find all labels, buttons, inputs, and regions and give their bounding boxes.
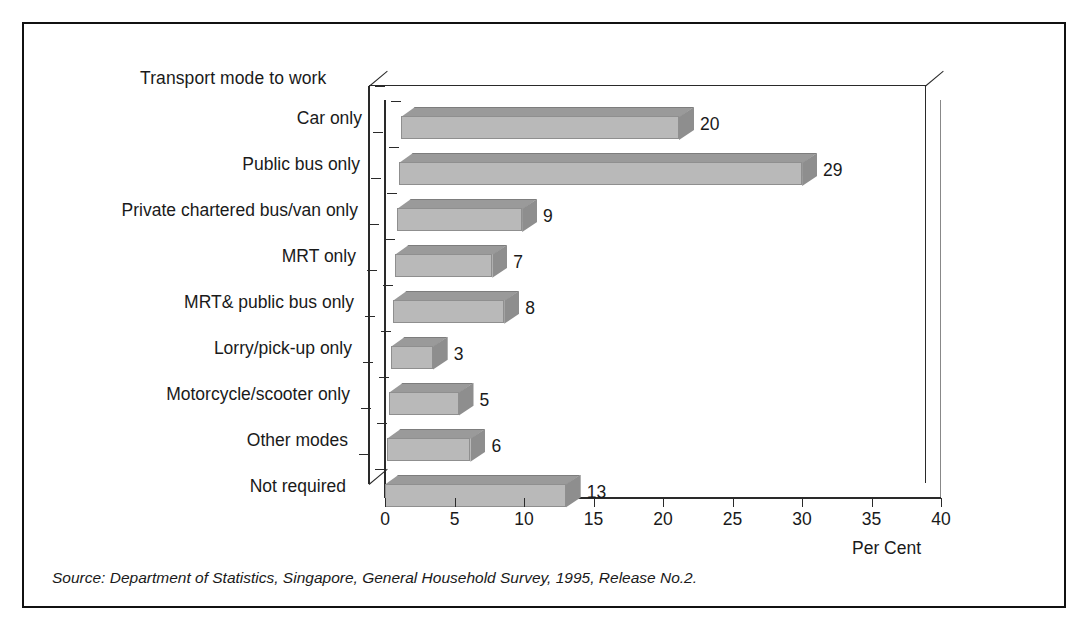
x-axis-tick-label: 30	[782, 509, 822, 530]
bar-4: 7	[395, 245, 507, 268]
x-axis-tick	[733, 498, 734, 507]
x-axis-tick-label: 35	[852, 509, 892, 530]
y-axis-tick	[391, 101, 401, 102]
bar-value-label: 9	[543, 206, 553, 227]
y-axis-tick-back	[359, 454, 369, 455]
chart-plot-area: Transport mode to work 202997835613 Car …	[0, 0, 1091, 627]
y-axis-tick-back	[373, 132, 383, 133]
bar-8: 6	[387, 429, 485, 452]
y-axis	[384, 100, 386, 498]
x-axis-tick-label: 5	[435, 509, 475, 530]
axis-category-label: MRT only	[0, 246, 364, 267]
axis-category-label: Lorry/pick-up only	[0, 338, 360, 359]
y-axis-tick	[383, 285, 393, 286]
axis-depth-diagonal-top-right	[925, 71, 944, 87]
plot-top-rail	[369, 85, 926, 86]
bar-3: 9	[397, 199, 537, 222]
y-axis-tick	[377, 423, 387, 424]
category-label-row: Car only	[0, 108, 370, 130]
bar-value-label: 3	[454, 344, 464, 365]
y-axis-tick	[385, 239, 395, 240]
category-label-row: Public bus only	[0, 154, 368, 176]
category-label-row: MRT& public bus only	[0, 292, 362, 314]
axis-category-label: Motorcycle/scooter only	[0, 384, 358, 405]
bar-value-label: 6	[491, 436, 501, 457]
category-label-row: Not required	[0, 476, 354, 498]
bar-front-face	[385, 484, 566, 507]
axis-category-label: Private chartered bus/van only	[0, 200, 366, 221]
category-label-row: Other modes	[0, 430, 356, 452]
category-label-row: Private chartered bus/van only	[0, 200, 366, 222]
axis-category-label: Car only	[0, 108, 370, 129]
y-axis-back-edge	[368, 86, 370, 484]
x-axis-tick-label: 25	[713, 509, 753, 530]
bar-value-label: 29	[823, 160, 842, 181]
bar-7: 5	[389, 383, 474, 406]
bar-front-face	[395, 254, 492, 277]
source-note: Source: Department of Statistics, Singap…	[52, 569, 697, 587]
bar-front-face	[393, 300, 504, 323]
x-axis-tick	[524, 498, 525, 507]
x-axis-tick	[802, 498, 803, 507]
y-axis-tick-back	[371, 178, 381, 179]
y-axis-tick	[389, 147, 399, 148]
x-axis-tick	[872, 498, 873, 507]
x-axis-tick-label: 10	[504, 509, 544, 530]
x-axis-tick	[663, 498, 664, 507]
category-label-row: Lorry/pick-up only	[0, 338, 360, 360]
x-axis-tick-label: 40	[921, 509, 961, 530]
plot-right-rail-back	[925, 85, 926, 483]
axis-category-label: Not required	[0, 476, 354, 497]
bar-value-label: 5	[480, 390, 490, 411]
category-label-row: MRT only	[0, 246, 364, 268]
x-axis-tick-label: 20	[643, 509, 683, 530]
y-axis-tick-back	[367, 270, 377, 271]
axis-category-label: MRT& public bus only	[0, 292, 362, 313]
bar-2: 29	[399, 153, 817, 176]
bar-front-face	[391, 346, 433, 369]
y-axis-tick-back	[363, 362, 373, 363]
x-axis-tick	[455, 498, 456, 507]
y-axis-tick	[381, 331, 391, 332]
y-axis-tick-back	[365, 316, 375, 317]
y-axis-tick	[379, 377, 389, 378]
bar-value-label: 8	[525, 298, 535, 319]
bar-front-face	[397, 208, 522, 231]
x-axis-unit-label: Per Cent	[852, 538, 921, 559]
axis-category-label: Other modes	[0, 430, 356, 451]
x-axis-tick	[594, 498, 595, 507]
bar-1: 20	[401, 107, 694, 130]
bar-front-face	[387, 438, 470, 461]
y-axis-tick-back	[375, 86, 385, 87]
bar-5: 8	[393, 291, 519, 314]
bar-6: 3	[391, 337, 448, 360]
plot-right-rail-front	[940, 100, 941, 498]
bar-value-label: 20	[700, 114, 719, 135]
page-title: Transport mode to work	[140, 68, 326, 89]
x-axis-tick	[385, 498, 386, 507]
bar-front-face	[401, 116, 679, 139]
bar-front-face	[399, 162, 802, 185]
bar-front-face	[389, 392, 459, 415]
x-axis-tick-label: 15	[574, 509, 614, 530]
y-axis-tick	[375, 469, 385, 470]
axis-category-label: Public bus only	[0, 154, 368, 175]
category-label-row: Motorcycle/scooter only	[0, 384, 358, 406]
bar-value-label: 13	[587, 482, 606, 503]
x-axis-tick-label: 0	[365, 509, 405, 530]
y-axis-tick	[387, 193, 397, 194]
y-axis-tick-back	[361, 408, 371, 409]
x-axis-tick	[941, 498, 942, 507]
bar-9: 13	[385, 475, 581, 498]
bar-value-label: 7	[513, 252, 523, 273]
y-axis-tick-back	[369, 224, 379, 225]
